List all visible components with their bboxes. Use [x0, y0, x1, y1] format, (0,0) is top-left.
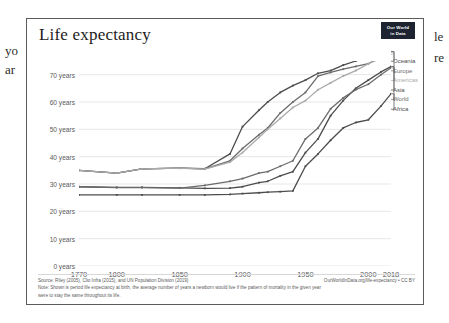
series-point-africa: [179, 194, 181, 196]
series-point-oceania: [279, 92, 281, 94]
series-point-world: [279, 165, 281, 167]
background-text-fragment-left-1: yo: [5, 44, 18, 57]
y-axis-tick-label: 40 years: [50, 153, 75, 160]
series-point-americas: [292, 107, 294, 109]
series-point-world: [229, 180, 231, 182]
series-point-world: [141, 187, 143, 189]
series-point-americas: [229, 161, 231, 163]
series-point-americas: [258, 137, 260, 139]
y-axis-tick-label: 50 years: [50, 126, 75, 133]
series-point-asia: [380, 71, 382, 73]
series-point-americas: [141, 168, 143, 170]
series-point-world: [116, 187, 118, 189]
series-point-europe: [279, 112, 281, 114]
series-point-world: [292, 160, 294, 162]
legend-item-world[interactable]: World: [393, 95, 427, 105]
series-point-africa: [317, 153, 319, 155]
series-point-africa: [342, 127, 344, 129]
footer-note-line-2: were to stay the same throughout its lif…: [38, 292, 415, 299]
series-point-world: [305, 138, 307, 140]
legend-item-asia[interactable]: Asia: [393, 86, 427, 96]
series-point-africa: [242, 193, 244, 195]
series-point-world: [342, 97, 344, 99]
series-point-americas: [367, 63, 369, 65]
series-point-asia: [204, 187, 206, 189]
series-point-oceania: [330, 70, 332, 72]
series-point-americas: [342, 75, 344, 77]
series-point-world: [204, 184, 206, 186]
series-point-world: [267, 171, 269, 173]
series-point-africa: [390, 93, 391, 95]
series-point-europe: [292, 101, 294, 103]
series-point-asia: [305, 152, 307, 154]
y-axis-tick-label: 60 years: [50, 99, 75, 106]
series-point-world: [380, 74, 382, 76]
series-point-asia: [292, 171, 294, 173]
series-point-world: [79, 186, 80, 188]
series-point-europe: [258, 134, 260, 136]
series-point-africa: [305, 165, 307, 167]
series-point-americas: [267, 128, 269, 130]
y-axis-tick-label: 0 years: [53, 263, 75, 270]
legend-item-oceania[interactable]: Oceania: [393, 57, 427, 67]
series-point-americas: [317, 89, 319, 91]
series-point-africa: [229, 193, 231, 195]
series-point-oceania: [355, 61, 357, 62]
our-world-in-data-logo[interactable]: Our World in Data: [381, 22, 415, 39]
y-axis-tick-label: 20 years: [50, 208, 75, 215]
series-point-asia: [267, 180, 269, 182]
series-point-world: [258, 172, 260, 174]
series-point-asia: [330, 115, 332, 117]
series-point-world: [367, 83, 369, 85]
legend-item-americas[interactable]: Americas: [393, 76, 427, 86]
footer-source: Source: Riley (2005), Clio Infra (2015),…: [38, 277, 188, 284]
series-point-americas: [330, 82, 332, 84]
series-point-oceania: [342, 64, 344, 66]
y-axis-tick-label: 70 years: [50, 71, 75, 78]
series-point-europe: [242, 148, 244, 150]
series-point-europe: [342, 68, 344, 70]
series-point-asia: [367, 79, 369, 81]
series-point-europe: [330, 72, 332, 74]
series-point-africa: [204, 194, 206, 196]
series-point-oceania: [317, 72, 319, 74]
series-point-africa: [258, 192, 260, 194]
chart-title: Life expectancy: [39, 25, 151, 45]
logo-line-2: in Data: [381, 31, 415, 37]
background-text-fragment-right-1: le: [434, 30, 443, 43]
series-point-asia: [317, 138, 319, 140]
series-point-africa: [330, 139, 332, 141]
series-point-world: [355, 89, 357, 91]
footer-url[interactable]: OurWorldInData.org/life-expectancy • CC …: [324, 277, 415, 284]
footer-note-line-1: Note: Shown is period life expectancy at…: [38, 284, 415, 291]
series-point-world: [179, 187, 181, 189]
series-point-africa: [380, 105, 382, 107]
series-point-africa: [116, 194, 118, 196]
series-point-oceania: [242, 126, 244, 128]
series-point-world: [317, 127, 319, 129]
legend-item-europe[interactable]: Europe: [393, 67, 427, 77]
series-point-europe: [355, 66, 357, 68]
series-point-asia: [258, 182, 260, 184]
legend-item-africa[interactable]: Africa: [393, 105, 427, 115]
series-point-americas: [305, 100, 307, 102]
chart-svg: [79, 61, 391, 266]
chart-plot-area[interactable]: 0 years10 years20 years30 years40 years5…: [79, 61, 391, 266]
series-point-africa: [292, 190, 294, 192]
series-point-americas: [79, 169, 80, 171]
series-point-asia: [279, 175, 281, 177]
y-axis-tick-label: 10 years: [50, 235, 75, 242]
y-axis-tick-label: 30 years: [50, 181, 75, 188]
background-text-fragment-right-2: re: [434, 51, 444, 64]
series-point-americas: [355, 70, 357, 72]
series-point-americas: [279, 118, 281, 120]
footer-divider: [38, 274, 415, 275]
series-point-africa: [141, 194, 143, 196]
series-point-oceania: [229, 153, 231, 155]
chart-legend: OceaniaEuropeAmericasAsiaWorldAfrica: [393, 57, 427, 115]
series-line-europe[interactable]: [79, 61, 391, 173]
series-point-europe: [317, 75, 319, 77]
series-point-asia: [242, 186, 244, 188]
series-point-world: [390, 67, 391, 69]
series-point-oceania: [305, 79, 307, 81]
